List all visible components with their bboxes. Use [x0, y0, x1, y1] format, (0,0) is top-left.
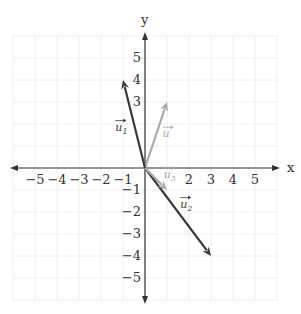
- y-axis-label: y: [140, 12, 149, 27]
- vector-label-u: u: [163, 127, 170, 140]
- vector-u3: u3: [145, 166, 176, 190]
- y-tick-label: 5: [133, 50, 141, 65]
- axes: xy: [10, 12, 295, 304]
- y-tick-label: 4: [133, 72, 141, 87]
- vector-label-u3: u3: [164, 168, 176, 183]
- x-axis-arrow-right-icon: [272, 165, 280, 171]
- x-tick-label: −2: [91, 172, 110, 187]
- x-tick-label: −4: [47, 172, 66, 187]
- x-tick-label: −5: [25, 172, 44, 187]
- y-tick-label: −2: [122, 204, 141, 219]
- x-tick-label: 2: [185, 172, 193, 187]
- vector-u: u: [145, 102, 174, 168]
- x-tick-label: −3: [69, 172, 88, 187]
- x-axis-arrow-left-icon: [10, 165, 18, 171]
- x-tick-label: 4: [229, 172, 237, 187]
- x-axis-label: x: [287, 160, 295, 175]
- vector-diagram: xy −5−4−3−2−12345543−1−2−3−4−5 uu1u2u3: [0, 0, 301, 314]
- y-tick-label: −3: [122, 226, 141, 241]
- vector-label-u2: u2: [180, 198, 192, 213]
- vector-label-u1: u1: [115, 121, 127, 136]
- y-tick-label: −1: [122, 182, 141, 197]
- x-tick-label: 5: [251, 172, 259, 187]
- y-tick-label: 3: [133, 94, 141, 109]
- y-tick-label: −5: [122, 270, 141, 285]
- y-tick-label: −4: [122, 248, 141, 263]
- x-tick-label: 3: [207, 172, 215, 187]
